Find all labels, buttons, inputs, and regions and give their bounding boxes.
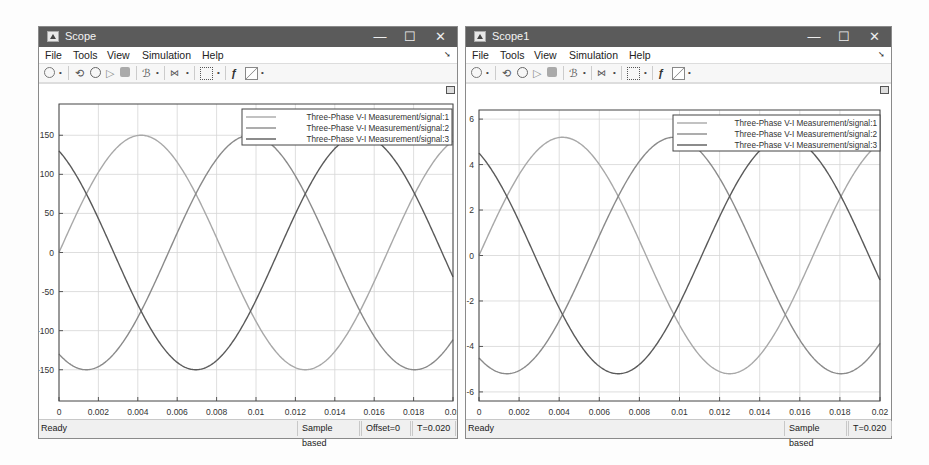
maximize-button[interactable]: ☐ (395, 27, 425, 47)
window-title: Scope1 (492, 30, 529, 42)
legend-entry: Three-Phase V-I Measurement/signal:3 (307, 135, 450, 144)
run-icon[interactable] (517, 67, 528, 78)
minimize-button[interactable]: — (799, 27, 829, 47)
y-tick-label: -100 (39, 326, 54, 336)
undock-icon[interactable]: ➘ (878, 50, 885, 59)
title-bar[interactable]: Scope — ☐ ✕ (39, 27, 457, 47)
menu-help[interactable]: Help (629, 49, 651, 61)
x-tick-label: 0.012 (285, 407, 307, 417)
run-icon[interactable] (90, 67, 101, 78)
y-tick-label: 4 (469, 160, 474, 170)
status-time: T=0.020 (412, 421, 456, 436)
scope1-window: Scope1 — ☐ ✕ File Tools View Simulation … (465, 26, 892, 439)
menu-view[interactable]: View (107, 49, 130, 61)
highlight-dropdown[interactable]: • (583, 66, 586, 80)
status-bar: Ready Sample based T=0.020 (466, 419, 891, 438)
status-bar: Ready Sample based Offset=0 T=0.020 (39, 419, 457, 438)
menu-simulation[interactable]: Simulation (569, 49, 618, 61)
status-sample-mode: Sample based (297, 421, 360, 436)
status-time: T=0.020 (848, 421, 892, 436)
x-tick-label: 0.014 (324, 407, 346, 417)
undock-icon[interactable]: ➘ (444, 50, 451, 59)
menu-tools[interactable]: Tools (73, 49, 98, 61)
toolbar: • ⟲ ▷ ℬ • ⋈ • • ƒ • (39, 63, 457, 83)
matlab-app-icon (47, 31, 59, 42)
scope-plot[interactable]: 00.0020.0040.0060.0080.010.0120.0140.016… (39, 84, 457, 420)
autoscale-icon[interactable]: ƒ (658, 66, 664, 80)
x-tick-label: 0.02 (872, 407, 889, 417)
settings-dropdown[interactable]: • (486, 66, 489, 80)
x-tick-label: 0.002 (88, 407, 110, 417)
step-forward-icon[interactable]: ▷ (106, 66, 114, 80)
x-tick-label: 0.016 (789, 407, 811, 417)
status-ready: Ready (41, 423, 67, 433)
legend-entry: Three-Phase V-I Measurement/signal:2 (735, 130, 878, 139)
close-button[interactable]: ✕ (859, 27, 889, 47)
scope1-plot[interactable]: 00.0020.0040.0060.0080.010.0120.0140.016… (466, 84, 891, 420)
step-forward-icon[interactable]: ▷ (533, 66, 541, 80)
expand-legend-icon[interactable] (446, 86, 455, 94)
zoom-dropdown[interactable]: • (644, 66, 647, 80)
highlight-block-icon[interactable]: ℬ (569, 66, 578, 80)
triggers-icon[interactable]: ⋈ (170, 66, 179, 80)
toolbar-separator (563, 66, 564, 80)
y-tick-label: 0 (49, 248, 54, 258)
y-tick-label: 100 (40, 169, 54, 179)
x-tick-label: 0.004 (127, 407, 149, 417)
highlight-dropdown[interactable]: • (156, 66, 159, 80)
triggers-icon[interactable]: ⋈ (597, 66, 606, 80)
y-tick-label: -150 (39, 365, 54, 375)
stop-icon[interactable] (120, 67, 130, 77)
highlight-block-icon[interactable]: ℬ (142, 66, 151, 80)
x-tick-label: 0.004 (549, 407, 571, 417)
toolbar-separator (68, 66, 69, 80)
legend[interactable]: Three-Phase V-I Measurement/signal:1Thre… (673, 115, 880, 151)
settings-icon[interactable] (471, 67, 482, 78)
settings-dropdown[interactable]: • (59, 66, 62, 80)
toolbar-separator (652, 66, 653, 80)
legend-entry: Three-Phase V-I Measurement/signal:1 (735, 119, 878, 128)
title-bar[interactable]: Scope1 — ☐ ✕ (466, 27, 891, 47)
x-tick-label: 0 (477, 407, 482, 417)
menu-view[interactable]: View (534, 49, 557, 61)
menu-bar: File Tools View Simulation Help ➘ (466, 47, 891, 63)
y-tick-label: -2 (466, 296, 474, 306)
x-tick-label: 0 (57, 407, 62, 417)
y-tick-label: 50 (45, 208, 55, 218)
plot-area[interactable]: 00.0020.0040.0060.0080.010.0120.0140.016… (39, 83, 457, 419)
y-tick-label: -50 (42, 287, 55, 297)
minimize-button[interactable]: — (365, 27, 395, 47)
triggers-dropdown[interactable]: • (186, 66, 189, 80)
toolbar-separator (194, 66, 195, 80)
maximize-button[interactable]: ☐ (829, 27, 859, 47)
zoom-icon[interactable] (200, 67, 213, 80)
toolbar-separator (591, 66, 592, 80)
step-back-icon[interactable]: ⟲ (502, 66, 511, 80)
menu-help[interactable]: Help (202, 49, 224, 61)
close-button[interactable]: ✕ (425, 27, 455, 47)
menu-simulation[interactable]: Simulation (142, 49, 191, 61)
style-dropdown[interactable]: • (688, 66, 691, 80)
x-tick-label: 0.006 (589, 407, 611, 417)
settings-icon[interactable] (44, 67, 55, 78)
expand-legend-icon[interactable] (880, 86, 889, 94)
zoom-dropdown[interactable]: • (217, 66, 220, 80)
legend-entry: Three-Phase V-I Measurement/signal:3 (735, 141, 878, 150)
status-ready: Ready (468, 423, 494, 433)
menu-tools[interactable]: Tools (500, 49, 525, 61)
zoom-icon[interactable] (627, 67, 640, 80)
style-icon[interactable] (672, 67, 685, 80)
menu-file[interactable]: File (472, 49, 489, 61)
menu-file[interactable]: File (45, 49, 62, 61)
legend[interactable]: Three-Phase V-I Measurement/signal:1Thre… (242, 109, 452, 145)
stop-icon[interactable] (547, 67, 557, 77)
style-dropdown[interactable]: • (261, 66, 264, 80)
step-back-icon[interactable]: ⟲ (75, 66, 84, 80)
y-tick-label: 2 (469, 205, 474, 215)
triggers-dropdown[interactable]: • (613, 66, 616, 80)
plot-area[interactable]: 00.0020.0040.0060.0080.010.0120.0140.016… (466, 83, 891, 419)
autoscale-icon[interactable]: ƒ (231, 66, 237, 80)
legend-entry: Three-Phase V-I Measurement/signal:1 (307, 113, 450, 122)
style-icon[interactable] (245, 67, 258, 80)
y-tick-label: 150 (40, 130, 54, 140)
